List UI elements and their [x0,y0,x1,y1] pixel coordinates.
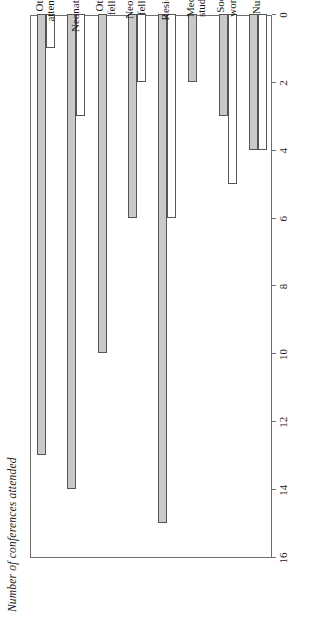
axis-tick-label: 10 [277,349,289,360]
axis-tick [272,150,276,151]
category-label: Other attendings [34,0,57,22]
axis-label-value: Number of conferences attended [6,457,18,612]
bar-series-container [31,16,271,557]
category-label: Social workers [215,0,238,17]
bar-general-nursery [258,14,267,150]
axis-tick-label: 12 [277,417,289,428]
category-label: Residents [160,0,172,20]
axis-tick [272,82,276,83]
bar-general-nursery [137,14,146,82]
bar-randolph-nursery [128,14,137,218]
axis-tick-label: 6 [277,216,289,222]
bar-randolph-nursery [249,14,258,150]
category-label: Neonatologists [70,0,82,32]
axis-tick [272,14,276,15]
bar-randolph-nursery [67,14,76,489]
bar-randolph-nursery [98,14,107,353]
axis-tick [272,421,276,422]
category-label: Other fellows [94,0,117,15]
axis-tick-label: 14 [277,485,289,496]
bar-chart: Number of conferences attended 024681012… [0,0,314,620]
axis-tick-label: 0 [277,12,289,18]
axis-tick-label: 8 [277,284,289,290]
axis-tick [272,218,276,219]
bar-randolph-nursery [37,14,46,455]
category-label: Medical students [185,0,208,17]
axis-tick-label: 2 [277,80,289,86]
axis-tick [272,286,276,287]
value-axis: 0246810121416 [272,15,298,558]
category-label: Neonatal fellows [124,0,147,19]
category-label: Nurses [251,0,263,14]
bar-general-nursery [228,14,237,184]
bar-general-nursery [167,14,176,218]
bar-randolph-nursery [188,14,197,82]
plot-area [30,15,272,558]
axis-tick [272,489,276,490]
axis-tick-label: 4 [277,148,289,154]
bar-randolph-nursery [158,14,167,523]
bar-randolph-nursery [219,14,228,116]
figure-canvas: Number of conferences attended 024681012… [0,0,314,620]
axis-tick-label: 16 [277,553,289,564]
axis-tick [272,353,276,354]
axis-tick [272,557,276,558]
